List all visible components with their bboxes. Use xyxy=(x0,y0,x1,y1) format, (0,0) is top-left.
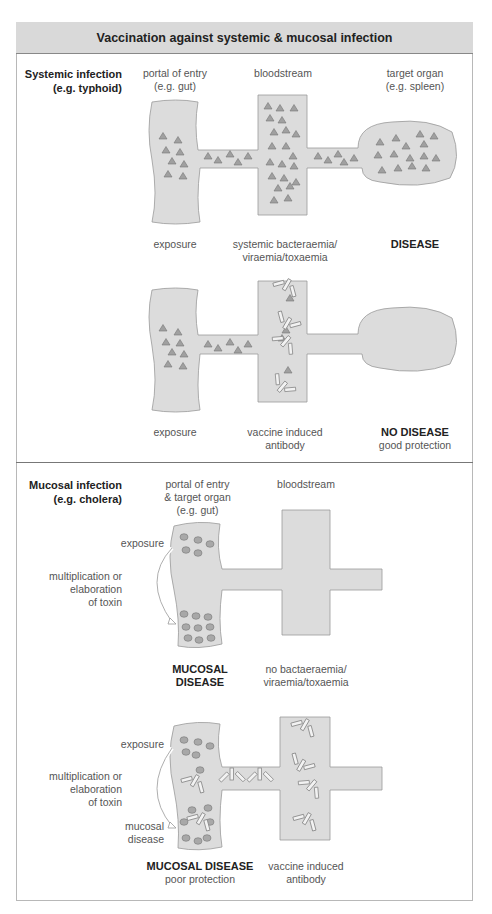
no-disease-text: NO DISEASE xyxy=(365,426,465,439)
mult-line1: multiplication or xyxy=(49,770,122,783)
bacteraemia-label: systemic bacteraemia/ viraemia/toxaemia xyxy=(225,238,345,264)
col-portal-line1: portal of entry xyxy=(155,478,240,491)
no-bacteraemia-line2: viraemia/toxaemia xyxy=(256,676,356,689)
mucosal-disease-outcome: MUCOSAL DISEASE poor protection xyxy=(140,860,260,886)
antibody-label: vaccine induced antibody xyxy=(256,860,356,886)
col-target-label: target organ (e.g. spleen) xyxy=(370,67,460,93)
mult-line2: elaboration xyxy=(49,783,122,796)
systemic-unvaccinated-diagram xyxy=(149,95,457,224)
col-portal-label: portal of entry (e.g. gut) xyxy=(140,67,210,93)
mucosal-line2: disease xyxy=(125,833,164,846)
col-blood-label: bloodstream xyxy=(266,478,346,491)
systemic-example: (e.g. typhoid) xyxy=(25,81,122,95)
exposure-label: exposure xyxy=(121,738,164,751)
no-disease-label: NO DISEASE good protection xyxy=(365,426,465,452)
antibody-line1: vaccine induced xyxy=(235,426,335,439)
col-portal-line2: (e.g. gut) xyxy=(140,80,210,93)
col-portal-line3: (e.g. gut) xyxy=(155,504,240,517)
antibody-line2: antibody xyxy=(256,873,356,886)
mult-line1: multiplication or xyxy=(49,570,122,583)
exposure-label: exposure xyxy=(140,238,210,251)
mucosal-unvaccinated-diagram xyxy=(157,510,382,648)
mucosal-example: (e.g. cholera) xyxy=(29,492,122,506)
poor-protection-text: poor protection xyxy=(140,873,260,886)
col-portal-label: portal of entry & target organ (e.g. gut… xyxy=(155,478,240,517)
disease-label: DISEASE xyxy=(375,238,455,251)
mucosal-disease-line1: MUCOSAL xyxy=(160,663,240,676)
no-bacteraemia-label: no bactaeraemia/ viraemia/toxaemia xyxy=(256,663,356,689)
mucosal-disease-text: MUCOSAL DISEASE xyxy=(140,860,260,873)
no-bacteraemia-line1: no bactaeraemia/ xyxy=(256,663,356,676)
good-protection-text: good protection xyxy=(365,439,465,452)
mult-line3: of toxin xyxy=(49,596,122,609)
mult-line3: of toxin xyxy=(49,796,122,809)
bacteraemia-line1: systemic bacteraemia/ xyxy=(225,238,345,251)
multiplication-label: multiplication or elaboration of toxin xyxy=(49,770,122,809)
mucosal-disease-label: MUCOSAL DISEASE xyxy=(160,663,240,689)
gut-tissue xyxy=(149,281,457,412)
col-portal-line2: & target organ xyxy=(155,491,240,504)
mucosal-heading: Mucosal infection (e.g. cholera) xyxy=(29,478,122,506)
bacteraemia-line2: viraemia/toxaemia xyxy=(225,251,345,264)
multiplication-label: multiplication or elaboration of toxin xyxy=(49,570,122,609)
mucosal-disease-small-label: mucosal disease xyxy=(125,820,164,846)
systemic-heading: Systemic infection (e.g. typhoid) xyxy=(25,67,122,95)
mucosal-line1: mucosal xyxy=(125,820,164,833)
col-blood-label: bloodstream xyxy=(243,67,323,80)
systemic-heading-text: Systemic infection xyxy=(25,67,122,81)
mucosal-heading-text: Mucosal infection xyxy=(29,478,122,492)
mucosal-disease-line2: DISEASE xyxy=(160,676,240,689)
antibody-line2: antibody xyxy=(235,439,335,452)
mucosal-vaccinated-diagram xyxy=(157,713,382,850)
col-target-line2: (e.g. spleen) xyxy=(370,80,460,93)
mult-line2: elaboration xyxy=(49,583,122,596)
systemic-vaccinated-diagram xyxy=(149,273,457,412)
col-portal-line1: portal of entry xyxy=(140,67,210,80)
col-target-line1: target organ xyxy=(370,67,460,80)
exposure-label: exposure xyxy=(140,426,210,439)
antibody-label: vaccine induced antibody xyxy=(235,426,335,452)
exposure-label: exposure xyxy=(121,537,164,550)
antibody-line1: vaccine induced xyxy=(256,860,356,873)
